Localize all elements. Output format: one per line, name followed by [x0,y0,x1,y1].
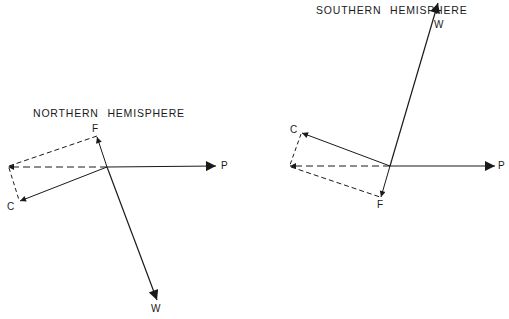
southern-label-w: W [434,20,444,30]
northern-c-vector [20,167,107,201]
southern-diagram [290,3,495,197]
northern-f-vector [97,137,107,167]
southern-label-p: P [498,161,505,171]
force-diagram [0,0,509,319]
northern-hemisphere-title: NORTHERN HEMISPHERE [33,108,185,119]
northern-p-vector [107,166,216,167]
southern-w-vector [390,3,438,166]
northern-w-vector [107,167,157,300]
southern-f-vector [381,166,390,197]
southern-label-c: C [290,125,298,135]
southern-hemisphere-title: SOUTHERN HEMISPHERE [316,5,467,16]
southern-c-parallel-dashed [290,134,301,165]
northern-label-f: F [92,124,99,134]
southern-c-vector [302,133,390,166]
northern-label-c: C [7,202,15,212]
southern-label-f: F [377,200,384,210]
northern-diagram [8,136,216,300]
northern-label-w: W [151,304,161,314]
northern-c-parallel-dashed [9,168,19,200]
southern-f-parallel-dashed [291,167,380,197]
northern-label-p: P [221,161,228,171]
northern-f-parallel-dashed [9,136,97,166]
